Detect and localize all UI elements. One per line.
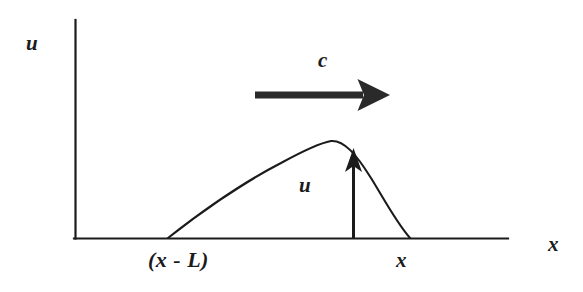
wave-pulse-curve xyxy=(168,141,410,238)
figure-canvas xyxy=(0,0,583,292)
velocity-arrow-label: c xyxy=(318,50,327,71)
wave-profile-figure: u x c u (x - L) x xyxy=(0,0,583,292)
amplitude-arrow-label: u xyxy=(299,175,311,196)
left-tick-label: (x - L) xyxy=(148,249,209,271)
velocity-arrow-shaft xyxy=(255,92,363,99)
right-tick-label: x xyxy=(396,250,407,271)
x-axis-label: x xyxy=(548,234,559,255)
y-axis-label: u xyxy=(26,33,38,54)
